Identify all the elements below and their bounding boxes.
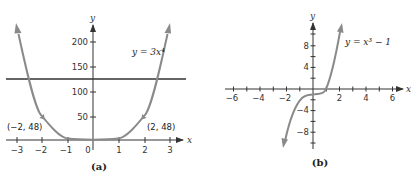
svg-text:150: 150 bbox=[72, 62, 88, 72]
svg-text:0: 0 bbox=[85, 145, 90, 155]
svg-text:−3: −3 bbox=[11, 145, 24, 155]
panel-label-b: (b) bbox=[312, 157, 328, 168]
chart-panel-b: x y −6 −4 −2 2 4 6 bbox=[225, 11, 411, 168]
y-axis-label: y bbox=[89, 13, 96, 23]
x-axis-label: x bbox=[406, 84, 411, 94]
svg-text:50: 50 bbox=[77, 112, 88, 122]
curve-arrow-down-icon bbox=[282, 138, 289, 148]
svg-text:−2: −2 bbox=[35, 145, 48, 155]
svg-text:3: 3 bbox=[167, 145, 172, 155]
svg-text:−8: −8 bbox=[296, 127, 309, 137]
svg-text:4: 4 bbox=[304, 62, 309, 72]
svg-text:8: 8 bbox=[304, 41, 309, 51]
svg-text:4: 4 bbox=[363, 93, 368, 103]
svg-text:−4: −4 bbox=[296, 105, 309, 115]
svg-text:−4: −4 bbox=[252, 93, 265, 103]
svg-text:1: 1 bbox=[116, 145, 121, 155]
svg-text:−2: −2 bbox=[279, 93, 292, 103]
svg-text:−1: −1 bbox=[60, 145, 73, 155]
equation-label-b: y = x³ − 1 bbox=[344, 37, 391, 47]
svg-text:6: 6 bbox=[390, 93, 395, 103]
svg-text:2: 2 bbox=[142, 145, 147, 155]
curve-arrow-left-icon bbox=[15, 23, 22, 34]
point-label-right: (2, 48) bbox=[147, 122, 175, 132]
equation-label-a: y = 3x⁴ bbox=[131, 47, 165, 57]
curve-arrow-right-icon bbox=[165, 23, 172, 34]
x-tick-labels: −3 −2 −1 0 1 2 3 bbox=[11, 145, 173, 155]
x-axis-label: x bbox=[187, 135, 192, 145]
panel-label-a: (a) bbox=[91, 161, 107, 172]
y-axis-label: y bbox=[309, 11, 316, 21]
curve-arrow-up-icon bbox=[337, 23, 344, 33]
svg-text:−6: −6 bbox=[226, 93, 239, 103]
chart-panel-a: x y −3 −2 −1 0 1 2 3 bbox=[6, 13, 192, 172]
point-label-left: (−2, 48) bbox=[7, 122, 42, 132]
svg-text:2: 2 bbox=[337, 93, 342, 103]
svg-text:100: 100 bbox=[72, 87, 88, 97]
svg-text:200: 200 bbox=[72, 37, 88, 47]
figure: x y −3 −2 −1 0 1 2 3 bbox=[0, 0, 418, 179]
